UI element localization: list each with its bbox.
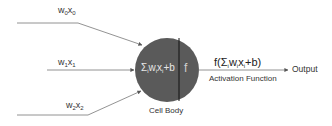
input-label-0: w0x0 bbox=[58, 5, 76, 16]
activation-expression: f(Σiwixi+b) bbox=[214, 56, 261, 69]
activation-suffix: +b) bbox=[245, 56, 261, 68]
output-label: Output bbox=[292, 64, 318, 74]
input-subscript: 0 bbox=[72, 10, 75, 16]
activation-symbol: f bbox=[184, 61, 187, 75]
input-line-0 bbox=[17, 23, 142, 45]
input-label-2: w2x2 bbox=[66, 100, 84, 111]
weighted-sum-expression: Σiwixi+b bbox=[141, 62, 175, 74]
input-label-1: w1x1 bbox=[58, 57, 76, 68]
bias-term: +b bbox=[163, 62, 174, 73]
input-subscript: 2 bbox=[80, 105, 83, 111]
weight-symbol: w bbox=[149, 62, 156, 73]
activation-prefix: f(Σ bbox=[214, 56, 228, 68]
input-subscript: 1 bbox=[72, 62, 75, 68]
cell-body-label: Cell Body bbox=[149, 106, 183, 115]
activation-function-label: Activation Function bbox=[209, 74, 277, 83]
weight-symbol: w bbox=[229, 56, 237, 68]
